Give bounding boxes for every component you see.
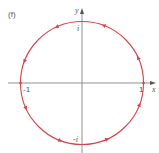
- tick-label-neg-i: -i: [73, 136, 78, 144]
- panel-label: (f): [8, 11, 16, 19]
- y-axis-arrow-icon: [80, 8, 84, 14]
- arrow-marker-icon: [101, 23, 106, 28]
- point-pos-one: [142, 82, 145, 85]
- arrow-marker-icon: [105, 136, 110, 141]
- arrow-marker-icon: [137, 102, 142, 107]
- arrow-marker-icon: [54, 24, 59, 29]
- tick-label-one: 1: [139, 86, 143, 94]
- arrow-marker-icon: [22, 59, 27, 64]
- point-neg-one: [19, 82, 22, 85]
- arrow-marker-icon: [135, 55, 140, 60]
- tick-label-i: i: [77, 25, 79, 33]
- x-axis-label: x: [152, 86, 156, 94]
- diagram-canvas: [0, 0, 159, 153]
- arrow-marker-icon: [58, 138, 63, 143]
- arrow-marker-icon: [23, 106, 28, 111]
- tick-label-neg-one: -1: [23, 86, 30, 94]
- y-axis-label: y: [75, 7, 79, 15]
- unit-circle-diagram: (f) y x 1 -1 i -i: [0, 0, 159, 153]
